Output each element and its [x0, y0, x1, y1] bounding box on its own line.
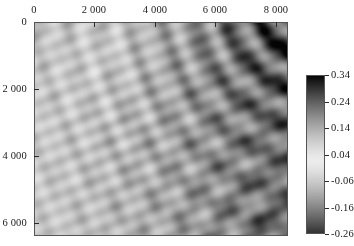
y-tick-label: 0 — [0, 16, 27, 28]
heatmap-image — [34, 22, 288, 236]
y-tick-label: 4 000 — [0, 150, 27, 162]
x-tick-mark — [155, 22, 156, 27]
colorbar-tick-mark — [325, 181, 329, 182]
colorbar-tick-label: -0.06 — [331, 175, 354, 187]
colorbar-tick-label: -0.16 — [331, 202, 354, 214]
colorbar-gradient — [306, 75, 325, 234]
colorbar-tick-mark — [325, 102, 329, 103]
y-tick-mark — [34, 223, 39, 224]
colorbar-tick-mark — [325, 208, 329, 209]
x-tick-label: 6 000 — [203, 4, 228, 16]
y-tick-mark — [34, 156, 39, 157]
x-tick-mark — [215, 22, 216, 27]
colorbar-tick-label: -0.26 — [331, 228, 354, 240]
x-tick-label: 2 000 — [82, 4, 107, 16]
colorbar-tick-label: 0.04 — [331, 149, 350, 161]
colorbar-tick-mark — [325, 128, 329, 129]
x-tick-label: 0 — [31, 4, 36, 16]
colorbar-tick-mark — [325, 234, 329, 235]
y-tick-mark — [34, 89, 39, 90]
colorbar-tick-label: 0.24 — [331, 96, 350, 108]
colorbar — [306, 75, 325, 234]
y-tick-label: 6 000 — [0, 217, 27, 229]
x-tick-mark — [94, 22, 95, 27]
y-tick-label: 2 000 — [0, 83, 27, 95]
x-tick-mark — [276, 22, 277, 27]
x-tick-label: 4 000 — [143, 4, 168, 16]
colorbar-tick-label: 0.34 — [331, 69, 350, 81]
x-tick-label: 8 000 — [264, 4, 289, 16]
colorbar-tick-label: 0.14 — [331, 122, 350, 134]
colorbar-tick-mark — [325, 75, 329, 76]
colorbar-tick-mark — [325, 155, 329, 156]
heatmap-plot-area — [34, 22, 288, 236]
